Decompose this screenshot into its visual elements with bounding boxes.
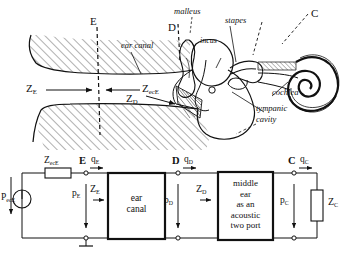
anatomy-impedance-ZecE-main: Z: [142, 82, 149, 94]
terminal-D-top: [176, 171, 180, 175]
block-ear-canal-line-2: canal: [108, 204, 165, 215]
plane-E-label: E: [90, 16, 97, 27]
terminal-D-bottom: [176, 236, 180, 240]
resistor-ZC-body: [311, 190, 323, 221]
flow-qD-sub: D: [189, 159, 193, 165]
ear-acoustic-two-port-figure: E D C ear canal malleus incus stapes coc…: [0, 0, 347, 255]
anatomy-impedance-ZecE: ZecE: [142, 83, 159, 94]
pressure-pD-label: pD: [164, 196, 173, 206]
flow-qC-label: qC: [300, 155, 309, 165]
lower-tissue-region: [33, 104, 210, 150]
impedance-ZD-sub: D: [202, 188, 206, 195]
source-PecE-sub: ecE: [6, 197, 15, 203]
anatomy-impedance-ZD-sub: D: [133, 98, 138, 105]
terminal-C-bottom: [292, 236, 296, 240]
stapes-label: stapes: [225, 16, 246, 25]
pressure-pC-sub: C: [285, 200, 289, 206]
impedance-ZE-sub: E: [96, 188, 100, 195]
plane-C-leader-line: [253, 14, 308, 55]
node-E-label: E: [79, 156, 86, 167]
malleus-label: malleus: [174, 7, 200, 16]
node-C-label: C: [288, 156, 296, 167]
flow-qC-sub: C: [305, 159, 309, 165]
pressure-pE-sub: E: [77, 193, 81, 199]
flow-qE-label: qE: [91, 155, 99, 165]
impedance-ZD-label: ZD: [196, 184, 207, 194]
block-ear-canal-text: ear canal: [108, 193, 165, 215]
tympanic-cavity-label-line1: tympanic: [256, 104, 287, 113]
impedance-ZC-sub: C: [334, 201, 338, 208]
ground-symbol-lines: [79, 240, 93, 246]
source-PecE-label: PecE: [1, 193, 15, 203]
impedance-ZC-label: ZC: [328, 197, 338, 207]
series-impedance-ZecE-main: Z: [44, 155, 50, 165]
incus-bone: [191, 40, 233, 111]
upper-tissue-region: [29, 35, 192, 74]
block-middle-ear-text: middle ear as an acoustic two port: [218, 178, 273, 231]
block-middle-ear-line-2: ear: [218, 189, 273, 200]
anatomy-impedance-ZE: ZE: [26, 83, 37, 94]
pressure-pE-label: pE: [72, 189, 80, 199]
resistor-ZecE-body: [45, 168, 71, 178]
ear-canal-label: ear canal: [121, 41, 153, 50]
anatomy-impedance-ZE-sub: E: [33, 88, 37, 95]
anatomy-impedance-ZecE-sub: ecE: [149, 88, 159, 95]
anatomy-drawing: [0, 0, 347, 255]
node-D-label: D: [172, 156, 180, 167]
flow-qD-label: qD: [184, 155, 193, 165]
series-impedance-ZecE-label: ZecE: [44, 156, 59, 166]
flow-qE-sub: E: [96, 159, 100, 165]
block-middle-ear-line-4: acoustic: [218, 210, 273, 221]
anatomy-impedance-ZE-main: Z: [26, 82, 33, 94]
block-middle-ear-line-5: two port: [218, 220, 273, 231]
terminal-C-top: [292, 171, 296, 175]
impedance-ZE-label: ZE: [90, 184, 100, 194]
anatomy-impedance-ZD: ZD: [126, 93, 138, 104]
anatomy-impedance-ZD-main: Z: [126, 92, 133, 104]
pressure-pD-sub: D: [169, 200, 173, 206]
cochlea-label: cochlea: [272, 88, 298, 97]
incus-label: incus: [200, 37, 217, 45]
plane-D-label: D: [168, 22, 176, 33]
series-impedance-ZecE-sub: ecE: [50, 160, 59, 166]
pressure-pC-label: pC: [280, 196, 289, 206]
tympanic-cavity-label-line2: cavity: [256, 115, 276, 124]
terminal-E-bottom: [84, 236, 88, 240]
block-ear-canal-line-1: ear: [108, 193, 165, 204]
block-middle-ear-line-3: as an: [218, 199, 273, 210]
block-middle-ear-line-1: middle: [218, 178, 273, 189]
plane-C-label: C: [311, 8, 318, 19]
terminal-E-top: [84, 171, 88, 175]
circuit-wires: [11, 168, 323, 246]
